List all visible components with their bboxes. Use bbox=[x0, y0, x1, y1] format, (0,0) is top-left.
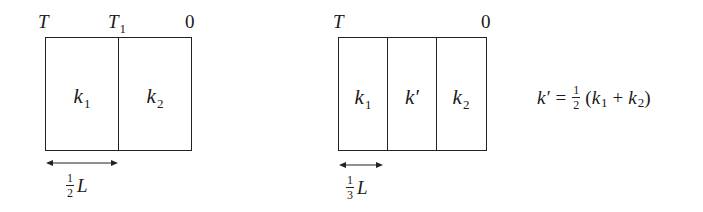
cell-k1-right: k1 bbox=[338, 87, 388, 108]
cell-k2-right: k2 bbox=[436, 87, 486, 108]
label-temperature-zero-right: 0 bbox=[481, 12, 491, 31]
double-arrow-icon bbox=[339, 160, 383, 170]
label-temperature-T-right: T bbox=[333, 12, 344, 31]
equation-k-prime: k′ = 12 ( k1 + k2 ) bbox=[537, 84, 651, 111]
label-temperature-zero-left: 0 bbox=[185, 12, 195, 31]
dimension-half-L: 12 L bbox=[66, 172, 88, 199]
label-temperature-T-left: T bbox=[38, 12, 49, 31]
double-arrow-icon bbox=[46, 158, 118, 168]
cell-k2-left: k2 bbox=[118, 86, 192, 107]
cell-k-prime: k′ bbox=[387, 87, 437, 108]
label-temperature-T1: T1 bbox=[108, 12, 126, 31]
cell-k1-left: k1 bbox=[45, 86, 119, 107]
dimension-third-L: 13 L bbox=[346, 174, 368, 201]
